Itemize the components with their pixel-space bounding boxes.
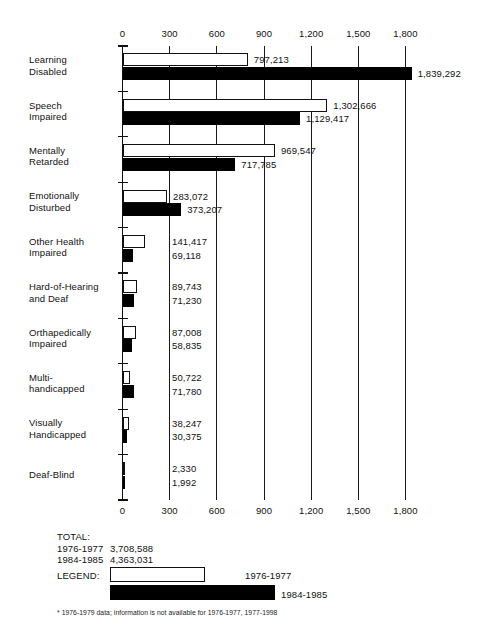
bar-orthapedically-impaired-1984-1985	[123, 339, 132, 352]
bar-other-health-impaired-1976-1977	[123, 235, 145, 248]
bar-value-learning-disabled-1976-1977: 797,213	[254, 54, 289, 65]
bar-multi-handicapped-1984-1985	[123, 385, 134, 398]
category-label-deaf-blind: Deaf-Blind	[29, 469, 74, 481]
bar-speech-impaired-1984-1985	[123, 112, 301, 125]
bar-value-mentally-retarded-1984-1985: 717,785	[241, 159, 276, 170]
bar-value-orthapedically-impaired-1976-1977: 87,008	[172, 327, 202, 338]
bar-value-hard-of-hearing-and-deaf-1976-1977: 89,743	[172, 281, 202, 292]
legend-heading: LEGEND:	[57, 570, 99, 582]
category-label-line: and Deaf	[29, 293, 99, 305]
x-tick-label-0-bottom: 0	[101, 505, 145, 517]
bar-learning-disabled-1976-1977	[123, 53, 248, 66]
bar-emotionally-disturbed-1976-1977	[123, 190, 168, 203]
category-label-line: handicapped	[29, 383, 85, 395]
category-label-line: Impaired	[29, 338, 91, 350]
bar-value-multi-handicapped-1976-1977: 50,722	[172, 372, 202, 383]
bar-value-learning-disabled-1984-1985: 1,839,292	[418, 68, 461, 79]
totals-row-label-1: 1976-1977	[57, 543, 103, 555]
category-label-emotionally-disturbed: EmotionallyDisturbed	[29, 190, 79, 213]
bar-value-emotionally-disturbed-1984-1985: 373,207	[187, 204, 222, 215]
totals-row-value-1: 3,708,588	[110, 543, 153, 555]
bar-value-hard-of-hearing-and-deaf-1984-1985: 71,230	[172, 295, 202, 306]
category-label-line: Disturbed	[29, 202, 79, 214]
bar-chart: 03006009001,2001,5001,800 797,2131,839,2…	[0, 0, 495, 629]
bar-value-emotionally-disturbed-1976-1977: 283,072	[173, 191, 208, 202]
bar-mentally-retarded-1976-1977	[123, 144, 275, 157]
category-label-line: Deaf-Blind	[29, 469, 74, 481]
bar-value-mentally-retarded-1976-1977: 969,547	[281, 145, 316, 156]
bar-visually-handicapped-1984-1985	[123, 430, 128, 443]
category-label-line: Handicapped	[29, 429, 86, 441]
category-label-line: Multi-	[29, 372, 85, 384]
bar-value-visually-handicapped-1976-1977: 38,247	[172, 418, 202, 429]
x-tick-label-900-bottom: 900	[242, 505, 286, 517]
bar-emotionally-disturbed-1984-1985	[123, 203, 182, 216]
axis-separator-tick-4	[118, 227, 128, 228]
axis-separator-tick-10	[118, 499, 128, 500]
legend-swatch-1976-1977	[110, 567, 205, 582]
bar-value-multi-handicapped-1984-1985: 71,780	[172, 386, 202, 397]
bar-value-deaf-blind-1984-1985: 1,992	[172, 477, 196, 488]
category-label-line: Retarded	[29, 156, 69, 168]
bar-hard-of-hearing-and-deaf-1976-1977	[123, 280, 137, 293]
category-label-line: Orthapedically	[29, 327, 91, 339]
x-tick-label-1200-bottom: 1,200	[289, 505, 333, 517]
bar-hard-of-hearing-and-deaf-1984-1985	[123, 294, 134, 307]
axis-separator-tick-2	[118, 136, 128, 137]
footnote: * 1976-1979 data; information is not ava…	[57, 608, 277, 617]
axis-separator-tick-6	[118, 318, 128, 319]
category-label-line: Speech	[29, 100, 67, 112]
bar-value-speech-impaired-1976-1977: 1,302,666	[333, 100, 376, 111]
bar-visually-handicapped-1976-1977	[123, 417, 129, 430]
category-label-line: Mentally	[29, 145, 69, 157]
gridline-1500	[358, 46, 359, 500]
category-label-line: Impaired	[29, 111, 67, 123]
totals-heading: TOTAL:	[57, 531, 90, 543]
totals-row-label-2: 1984-1985	[57, 554, 103, 566]
axis-separator-tick-7	[118, 363, 128, 364]
bar-value-speech-impaired-1984-1985: 1,129,417	[306, 113, 349, 124]
category-label-line: Impaired	[29, 247, 84, 259]
bar-mentally-retarded-1984-1985	[123, 158, 236, 171]
category-label-line: Emotionally	[29, 190, 79, 202]
x-tick-label-300-bottom: 300	[148, 505, 192, 517]
bar-deaf-blind-1984-1985	[123, 476, 125, 489]
category-label-other-health-impaired: Other HealthImpaired	[29, 236, 84, 259]
bar-learning-disabled-1984-1985	[123, 67, 412, 80]
category-label-multi-handicapped: Multi-handicapped	[29, 372, 85, 395]
category-label-line: Other Health	[29, 236, 84, 248]
category-label-speech-impaired: SpeechImpaired	[29, 100, 67, 123]
gridline-1800	[405, 46, 406, 500]
bar-value-other-health-impaired-1976-1977: 141,417	[172, 236, 207, 247]
bar-other-health-impaired-1984-1985	[123, 249, 134, 262]
x-axis-bottom-labels: 03006009001,2001,5001,800	[0, 505, 495, 517]
category-label-orthapedically-impaired: OrthapedicallyImpaired	[29, 327, 91, 350]
bar-value-visually-handicapped-1984-1985: 30,375	[172, 431, 202, 442]
category-label-line: Visually	[29, 417, 86, 429]
category-label-mentally-retarded: MentallyRetarded	[29, 145, 69, 168]
bar-orthapedically-impaired-1976-1977	[123, 326, 137, 339]
x-tick-label-1500-bottom: 1,500	[336, 505, 380, 517]
x-tick-label-600-bottom: 600	[195, 505, 239, 517]
axis-separator-tick-9	[118, 454, 128, 455]
axis-separator-tick-0	[118, 45, 128, 46]
bar-value-orthapedically-impaired-1984-1985: 58,835	[172, 340, 202, 351]
category-label-line: Hard-of-Hearing	[29, 281, 99, 293]
legend-text-1976-1977: 1976-1977	[245, 570, 291, 582]
category-label-line: Learning	[29, 54, 67, 66]
totals-row-value-2: 4,363,031	[110, 554, 153, 566]
bar-multi-handicapped-1976-1977	[123, 371, 131, 384]
axis-separator-tick-3	[118, 182, 128, 183]
axis-separator-tick-5	[118, 272, 128, 273]
axis-separator-tick-8	[118, 409, 128, 410]
category-label-line: Disabled	[29, 66, 67, 78]
bar-deaf-blind-1976-1977	[123, 462, 125, 475]
axis-separator-tick-1	[118, 91, 128, 92]
category-label-learning-disabled: LearningDisabled	[29, 54, 67, 77]
category-label-hard-of-hearing-and-deaf: Hard-of-Hearingand Deaf	[29, 281, 99, 304]
bar-value-other-health-impaired-1984-1985: 69,118	[172, 250, 201, 261]
legend-text-1984-1985: 1984-1985	[281, 589, 327, 601]
bar-speech-impaired-1976-1977	[123, 99, 328, 112]
bar-value-deaf-blind-1976-1977: 2,330	[172, 463, 196, 474]
x-tick-label-1800-bottom: 1,800	[384, 505, 428, 517]
